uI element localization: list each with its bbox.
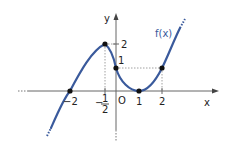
curve-dotted-start bbox=[47, 128, 51, 136]
origin-label: O bbox=[118, 95, 126, 106]
tick-label-x-neghalf-num: 1 bbox=[102, 93, 108, 104]
y-axis-arrow-icon bbox=[114, 13, 119, 20]
curve-label: f(x) bbox=[155, 28, 172, 39]
tick-label-x-neghalf-den: 2 bbox=[102, 104, 108, 115]
point-0-1 bbox=[113, 65, 118, 70]
point-neg2-0 bbox=[67, 88, 72, 93]
tick-label-y-1: 1 bbox=[118, 55, 124, 66]
curve-dotted-end bbox=[180, 19, 185, 28]
y-axis-label: y bbox=[104, 13, 110, 24]
tick-label-y-2: 2 bbox=[121, 39, 127, 50]
tick-label-x-1: 1 bbox=[136, 96, 142, 107]
point-neghalf-2 bbox=[102, 41, 107, 46]
tick-label-x-2: 2 bbox=[159, 96, 165, 107]
tick-label-x-neg2: −2 bbox=[63, 96, 78, 107]
point-2-1 bbox=[159, 65, 164, 70]
x-axis-label: x bbox=[204, 97, 210, 108]
function-graph: y x O f(x) 2 1 −2 − 1 2 1 2 bbox=[0, 0, 231, 151]
x-axis-arrow-icon bbox=[212, 89, 219, 94]
point-1-0 bbox=[136, 88, 141, 93]
